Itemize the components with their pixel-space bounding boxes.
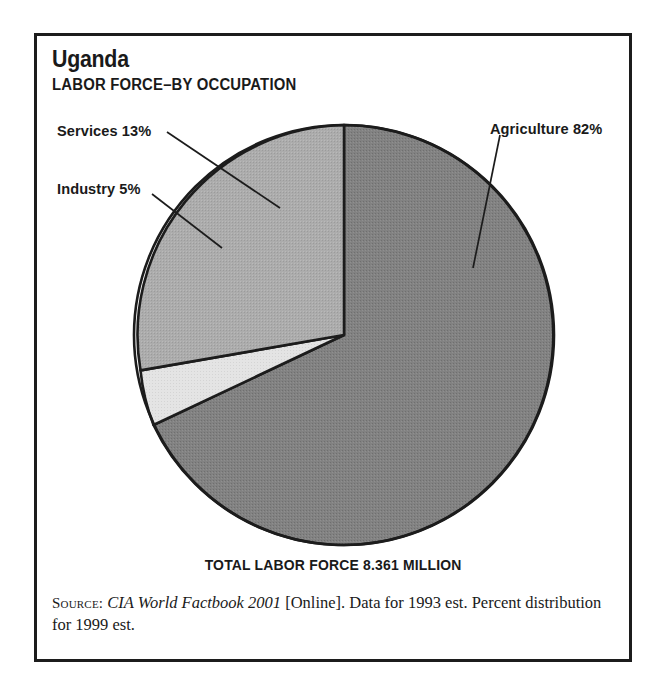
total-labor-force-text: TOTAL LABOR FORCE 8.361 MILLION [205,556,462,573]
pie-label-services: Services 13% [57,122,151,140]
figure-root: Uganda LABOR FORCE–BY OCCUPATION [0,0,667,700]
source-word: Source: [52,595,103,611]
page-title: Uganda [52,46,443,72]
pie-label-agriculture: Agriculture 82% [490,120,602,138]
pie-label-industry: Industry 5% [57,180,141,198]
source-title: CIA World Factbook 2001 [107,593,281,612]
total-labor-force-label: TOTAL LABOR FORCE 8.361 MILLION [52,556,614,573]
chart-subtitle: LABOR FORCE–BY OCCUPATION [52,75,443,94]
title-block: Uganda LABOR FORCE–BY OCCUPATION [52,46,472,94]
source-note: Source: CIA World Factbook 2001 [Online]… [52,592,612,635]
